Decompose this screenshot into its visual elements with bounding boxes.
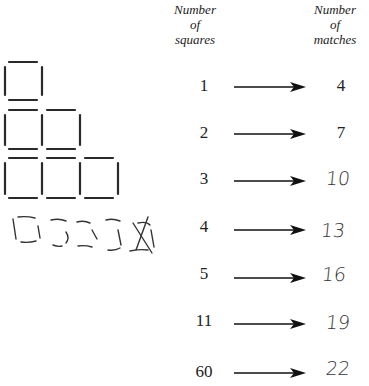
- matchstick-row-2: [5, 110, 80, 149]
- arrow-icon: [234, 224, 306, 236]
- squares-value-7: 60: [189, 362, 219, 382]
- header-matches-line3: matches: [300, 32, 369, 47]
- squares-value-2: 2: [189, 123, 219, 143]
- arrow-icon: [234, 272, 306, 284]
- header-squares-line1: Number: [160, 2, 230, 17]
- header-number-of-matches: Number of matches: [300, 2, 369, 47]
- matches-value-5: 16: [313, 263, 355, 285]
- matches-value-7: 22: [317, 357, 359, 379]
- arrow-icon: [234, 367, 306, 379]
- squares-value-4: 4: [189, 217, 219, 237]
- matchstick-row-1: [5, 62, 42, 100]
- header-number-of-squares: Number of squares: [160, 2, 230, 47]
- header-matches-line2: of: [300, 17, 369, 32]
- matches-value-4: 13: [312, 219, 354, 241]
- squares-value-5: 5: [189, 264, 219, 284]
- arrow-icon: [234, 128, 306, 140]
- matchstick-row-3: [5, 158, 118, 198]
- arrow-icon: [234, 318, 306, 330]
- squares-value-3: 3: [189, 169, 219, 189]
- matches-value-2: 7: [321, 123, 361, 143]
- header-squares-line2: of: [160, 17, 230, 32]
- arrow-icon: [234, 175, 306, 187]
- header-squares-line3: squares: [160, 32, 230, 47]
- matches-value-3: 10: [317, 167, 359, 189]
- handwritten-squares-row: [0, 205, 170, 260]
- squares-value-6: 11: [189, 311, 219, 331]
- matchstick-figure: [0, 55, 170, 215]
- matches-value-1: 4: [321, 76, 361, 96]
- matches-value-6: 19: [317, 311, 359, 333]
- arrow-icon: [234, 81, 306, 93]
- header-matches-line1: Number: [300, 2, 369, 17]
- squares-value-1: 1: [189, 76, 219, 96]
